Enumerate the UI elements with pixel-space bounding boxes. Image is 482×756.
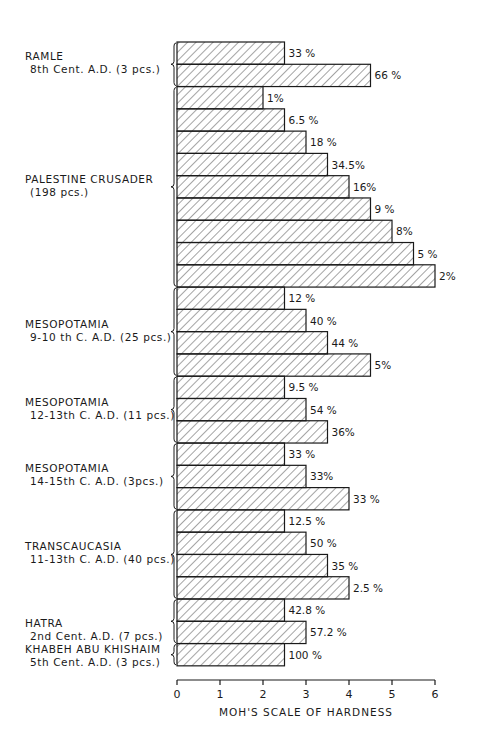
bar-percent-label: 66 %: [375, 69, 402, 81]
bar: [177, 265, 435, 287]
bar: [177, 644, 285, 666]
group-subtitle: 12-13th C. A.D. (11 pcs.): [30, 409, 175, 421]
group-name: MESOPOTAMIA: [25, 462, 109, 474]
x-tick-label: 6: [432, 688, 439, 701]
bar-percent-label: 33 %: [289, 448, 316, 460]
group-subtitle: (198 pcs.): [30, 186, 89, 198]
group-name: KHABEH ABU KHISHAIM: [25, 643, 161, 655]
bar-percent-label: 18 %: [310, 136, 337, 148]
group-name: MESOPOTAMIA: [25, 318, 109, 330]
group-subtitle: 9-10 th C. A.D. (25 pcs.): [30, 331, 172, 343]
bar: [177, 42, 285, 64]
bar: [177, 577, 349, 599]
bar-percent-label: 44 %: [332, 337, 359, 349]
x-axis: 0123456MOH'S SCALE OF HARDNESS: [174, 680, 439, 718]
bar: [177, 510, 285, 532]
bar-percent-label: 33 %: [289, 47, 316, 59]
bars-layer: 33 %66 %1%6.5 %18 %34.5%16%9 %8%5 %2%12 …: [177, 42, 456, 666]
x-tick-label: 0: [174, 688, 181, 701]
bar-percent-label: 5%: [375, 359, 392, 371]
group-brace-icon: [171, 444, 176, 509]
x-tick-label: 3: [303, 688, 310, 701]
hardness-bar-chart: 33 %66 %1%6.5 %18 %34.5%16%9 %8%5 %2%12 …: [0, 0, 482, 756]
group-subtitle: 5th Cent. A.D. (3 pcs.): [30, 656, 160, 668]
bar-percent-label: 42.8 %: [289, 604, 326, 616]
bar: [177, 599, 285, 621]
group-subtitle: 2nd Cent. A.D. (7 pcs.): [30, 630, 163, 642]
bar-percent-label: 100 %: [289, 649, 322, 661]
group-name: HATRA: [25, 617, 63, 629]
x-axis-title: MOH'S SCALE OF HARDNESS: [219, 706, 393, 718]
group-name: TRANSCAUCASIA: [24, 540, 122, 552]
group-brace-icon: [171, 43, 176, 86]
bar: [177, 109, 285, 131]
bar: [177, 621, 306, 643]
bar-percent-label: 35 %: [332, 560, 359, 572]
group-subtitle: 14-15th C. A.D. (3pcs.): [30, 475, 164, 487]
group-name: RAMLE: [25, 50, 64, 62]
bar-percent-label: 40 %: [310, 315, 337, 327]
bar: [177, 376, 285, 398]
bar-percent-label: 1%: [267, 92, 284, 104]
bar: [177, 443, 285, 465]
bar-percent-label: 2.5 %: [353, 582, 383, 594]
bar: [177, 465, 306, 487]
x-tick-label: 2: [260, 688, 267, 701]
bar: [177, 243, 414, 265]
bar-percent-label: 57.2 %: [310, 626, 347, 638]
bar: [177, 532, 306, 554]
bar: [177, 354, 371, 376]
group-brace-icon: [171, 88, 176, 287]
group-labels: RAMLE8th Cent. A.D. (3 pcs.)PALESTINE CR…: [24, 43, 176, 668]
group-brace-icon: [171, 288, 176, 375]
bar: [177, 220, 392, 242]
bar-percent-label: 12 %: [289, 292, 316, 304]
bar-percent-label: 33%: [310, 470, 333, 482]
group-subtitle: 8th Cent. A.D. (3 pcs.): [30, 63, 160, 75]
bar-percent-label: 9 %: [375, 203, 395, 215]
bar-percent-label: 12.5 %: [289, 515, 326, 527]
bar: [177, 287, 285, 309]
bar-percent-label: 36%: [332, 426, 355, 438]
bar: [177, 153, 328, 175]
group-name: PALESTINE CRUSADER: [25, 173, 154, 185]
x-tick-label: 1: [217, 688, 224, 701]
bar: [177, 87, 263, 109]
group-name: MESOPOTAMIA: [25, 396, 109, 408]
group-brace-icon: [171, 600, 176, 643]
bar: [177, 64, 371, 86]
bar-percent-label: 9.5 %: [289, 381, 319, 393]
bar: [177, 198, 371, 220]
bar-percent-label: 8%: [396, 225, 413, 237]
bar-percent-label: 34.5%: [332, 159, 365, 171]
bar: [177, 398, 306, 420]
bar-percent-label: 54 %: [310, 404, 337, 416]
bar-percent-label: 33 %: [353, 493, 380, 505]
bar-percent-label: 50 %: [310, 537, 337, 549]
bar: [177, 421, 328, 443]
bar: [177, 131, 306, 153]
bar: [177, 309, 306, 331]
bar-percent-label: 6.5 %: [289, 114, 319, 126]
x-tick-label: 5: [389, 688, 396, 701]
bar: [177, 554, 328, 576]
bar: [177, 176, 349, 198]
bar-percent-label: 2%: [439, 270, 456, 282]
bar: [177, 488, 349, 510]
group-subtitle: 11-13th C. A.D. (40 pcs.): [30, 553, 175, 565]
x-tick-label: 4: [346, 688, 353, 701]
bar: [177, 332, 328, 354]
bar-percent-label: 5 %: [418, 248, 438, 260]
bar-percent-label: 16%: [353, 181, 376, 193]
group-brace-icon: [171, 645, 176, 665]
